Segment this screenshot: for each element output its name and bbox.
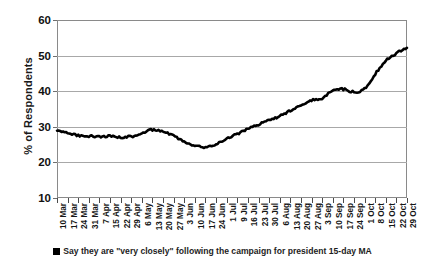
legend-label: Say they are "very closely" following th… — [63, 246, 372, 256]
x-tick-label: 22 Apr — [124, 203, 132, 228]
x-tick-label: 6 Aug — [283, 203, 291, 225]
x-tick-label: 30 Jul — [272, 203, 280, 226]
plot-area: 102030405060 — [57, 20, 407, 198]
x-tick-label: 22 Oct — [400, 203, 408, 228]
x-tick-label: 1 Jul — [230, 203, 238, 222]
x-tick-label: 23 Jul — [262, 203, 270, 226]
x-tick-label: 1 Oct — [368, 203, 376, 223]
x-tick-label: 13 May — [156, 203, 164, 230]
y-tick-label: 50 — [9, 50, 51, 62]
x-tick-label: 10 Sep — [336, 203, 344, 229]
x-tick-label: 17 Mar — [71, 203, 79, 229]
x-tick-label: 31 Mar — [92, 203, 100, 229]
legend: Say they are "very closely" following th… — [0, 246, 425, 256]
x-tick-label: 3 Jun — [187, 203, 195, 224]
x-tick-label: 17 Jun — [209, 203, 217, 229]
x-tick-label: 29 Oct — [410, 203, 418, 228]
square-marker-icon — [53, 248, 60, 255]
x-tick-label: 7 Apr — [103, 203, 111, 224]
x-tick-label: 29 Apr — [134, 203, 142, 228]
y-tick-label: 10 — [9, 192, 51, 204]
chart-container: % of Respondents 102030405060 10 Mar17 M… — [0, 0, 425, 269]
x-tick-label: 24 Mar — [81, 203, 89, 229]
x-tick-label: 10 Mar — [60, 203, 68, 229]
x-tick-label: 24 Jun — [219, 203, 227, 229]
x-tick-label: 27 May — [177, 203, 185, 230]
series-svg — [57, 20, 407, 198]
y-tick-label: 30 — [9, 121, 51, 133]
y-tick-label: 60 — [9, 14, 51, 26]
x-tick-label: 10 Jun — [198, 203, 206, 229]
x-axis-labels: 10 Mar17 Mar24 Mar31 Mar7 Apr15 Apr22 Ap… — [57, 203, 407, 245]
y-tick-label: 20 — [9, 156, 51, 168]
x-tick-label: 17 Sep — [347, 203, 355, 229]
x-tick-label: 20 May — [166, 203, 174, 230]
x-tick-label: 15 Apr — [113, 203, 121, 228]
x-tick-label: 24 Sep — [357, 203, 365, 229]
x-tick-label: 13 Aug — [294, 203, 302, 230]
x-tick-label: 6 May — [145, 203, 153, 226]
y-tick-label: 40 — [9, 85, 51, 97]
x-tick-label: 27 Aug — [315, 203, 323, 230]
x-tick-label: 3 Sep — [325, 203, 333, 225]
x-tick-label: 9 Jul — [241, 203, 249, 222]
x-tick-label: 16 Jul — [251, 203, 259, 226]
series-line — [57, 48, 407, 148]
x-tick-label: 20 Aug — [304, 203, 312, 230]
x-tick-label: 8 Oct — [378, 203, 386, 223]
x-tick-label: 15 Oct — [389, 203, 397, 228]
